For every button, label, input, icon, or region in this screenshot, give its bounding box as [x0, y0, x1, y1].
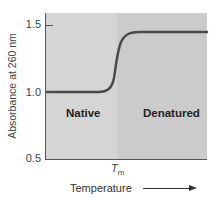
native-label: Native [66, 107, 101, 119]
x-axis [45, 159, 207, 160]
x-axis-label: Temperature [70, 182, 132, 194]
tm-sub: m [118, 168, 125, 177]
melting-curve [0, 0, 216, 201]
tm-label: Tm [111, 162, 124, 177]
arrow-right-icon [143, 188, 189, 189]
arrowhead-icon [189, 185, 197, 191]
y-tick-label-1-5: 1.5 [17, 18, 41, 30]
y-tick-1-5 [45, 25, 53, 26]
tm-main: T [111, 162, 118, 174]
y-axis [45, 13, 46, 160]
y-axis-label: Absorbance at 260 nm [6, 31, 18, 141]
y-tick-1-0 [45, 92, 53, 93]
y-tick-label-1-0: 1.0 [17, 86, 41, 98]
y-tick-label-0-5: 0.5 [17, 152, 41, 164]
denatured-label: Denatured [143, 107, 200, 119]
